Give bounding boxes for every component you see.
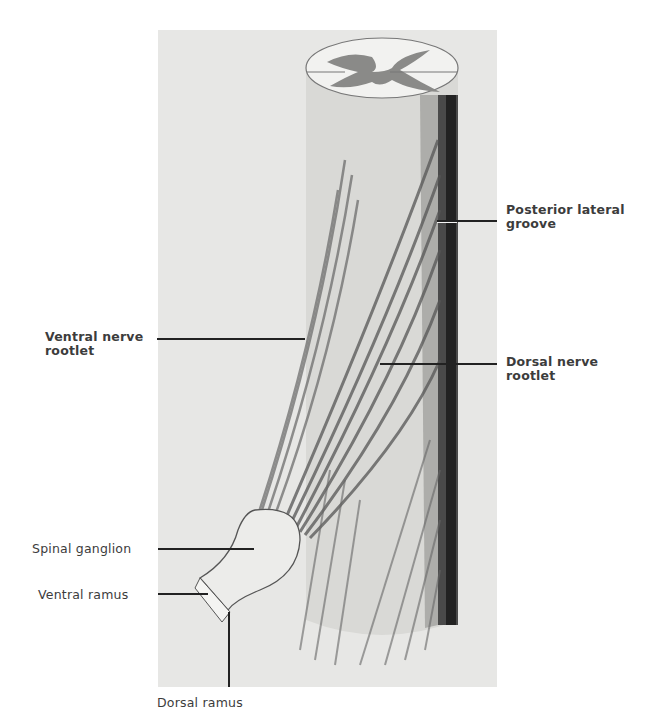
label-posterior-lateral-groove: Posterior lateral groove [506, 203, 625, 231]
cord-cross-section [306, 38, 458, 98]
spinal-ganglion-shape [195, 509, 300, 622]
leader-dorsal-nerve-rootlet [380, 363, 497, 365]
leader-spinal-ganglion [158, 548, 254, 550]
label-spinal-ganglion: Spinal ganglion [32, 542, 131, 556]
label-ventral-ramus: Ventral ramus [38, 588, 128, 602]
label-ventral-nerve-rootlet: Ventral nerve rootlet [45, 330, 143, 358]
leader-posterior-lateral-groove-highlight [437, 222, 457, 223]
label-dorsal-nerve-rootlet: Dorsal nerve rootlet [506, 355, 598, 383]
label-dorsal-ramus: Dorsal ramus [157, 696, 243, 710]
leader-ventral-ramus [158, 593, 208, 595]
leader-ventral-nerve-rootlet [157, 338, 305, 340]
leader-dorsal-ramus [228, 612, 230, 687]
